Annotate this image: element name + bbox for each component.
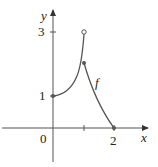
x-axis-label: x — [140, 130, 147, 145]
closed-point-2-0 — [112, 126, 116, 130]
open-point-1-3 — [82, 30, 86, 34]
y-tick-label-3: 3 — [38, 24, 45, 39]
function-graph: y 3 1 0 2 x f — [0, 0, 158, 167]
function-label: f — [95, 75, 101, 90]
origin-label: 0 — [40, 131, 47, 146]
y-axis-label: y — [39, 8, 47, 23]
closed-point-1-2 — [82, 61, 86, 65]
curve-piece-2 — [84, 63, 114, 128]
x-tick-label-2: 2 — [110, 133, 117, 148]
y-tick-label-1: 1 — [39, 88, 46, 103]
closed-point-0-1 — [51, 94, 55, 98]
curve-piece-1 — [53, 34, 84, 96]
